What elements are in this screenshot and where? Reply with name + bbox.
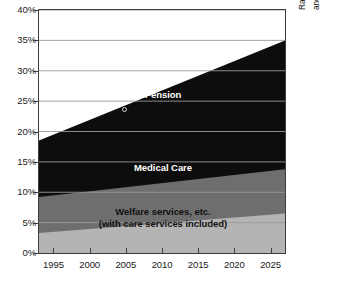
y-axis-tick-mark: [33, 253, 38, 254]
y-axis-tick-label: 40%: [2, 5, 36, 15]
x-axis-tick-mark: [162, 248, 163, 253]
y-axis-tick-mark: [33, 40, 38, 41]
y-axis-tick-label: 25%: [2, 96, 36, 106]
series-label-welfare-line1: Welfare services, etc.: [39, 206, 286, 218]
x-axis-tick-label: 2000: [70, 259, 110, 270]
x-axis-tick-mark: [271, 248, 272, 253]
x-axis-tick-label: 1995: [33, 259, 73, 270]
data-point-marker: [122, 107, 127, 112]
x-axis-tick-label: 2020: [214, 259, 254, 270]
stacked-area-chart-figure: 0%5%10%15%20%25%30%35%40% Pension Medica…: [0, 0, 342, 286]
x-axis-tick-label: 2015: [178, 259, 218, 270]
plot-area: Pension Medical Care Welfare services, e…: [38, 9, 286, 254]
y-axis-tick-mark: [33, 162, 38, 163]
series-label-pension: Pension: [39, 89, 286, 100]
y-axis-tick-label: 0%: [2, 248, 36, 258]
y-axis-tick-label: 10%: [2, 187, 36, 197]
x-axis-tick-mark: [126, 248, 127, 253]
y-axis-tick-label: 5%: [2, 218, 36, 228]
y-axis-tick-mark: [33, 192, 38, 193]
y-axis-tick-mark: [33, 101, 38, 102]
x-axis-tick-mark: [234, 248, 235, 253]
side-note: Rates to the national income vary betwee…: [296, 0, 338, 10]
x-axis-tick-label: 2025: [251, 259, 291, 270]
y-axis-tick-label: 20%: [2, 127, 36, 137]
y-axis-tick-label: 15%: [2, 157, 36, 167]
y-axis-tick-mark: [33, 223, 38, 224]
y-axis-tick-mark: [33, 132, 38, 133]
y-axis-tick-mark: [33, 71, 38, 72]
x-axis-tick-mark: [90, 248, 91, 253]
x-axis-tick-label: 2010: [142, 259, 182, 270]
series-label-medical: Medical Care: [39, 162, 286, 173]
y-axis-tick-label: 30%: [2, 66, 36, 76]
x-axis-tick-mark: [53, 248, 54, 253]
y-axis-tick-label: 35%: [2, 35, 36, 45]
series-label-welfare-line2: (with care services included): [39, 218, 286, 230]
y-axis-tick-mark: [33, 10, 38, 11]
x-axis-tick-mark: [198, 248, 199, 253]
series-label-welfare: Welfare services, etc. (with care servic…: [39, 206, 286, 230]
y-axis: 0%5%10%15%20%25%30%35%40%: [0, 0, 36, 286]
x-axis-tick-label: 2005: [106, 259, 146, 270]
side-note-line1: Rates to the national income vary betwee…: [296, 0, 310, 10]
side-note-line2: and 35.5% depending on economic growth r…: [310, 0, 324, 10]
